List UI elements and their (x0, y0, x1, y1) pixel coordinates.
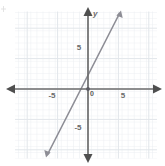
x-axis-arrow-left (6, 85, 15, 94)
x-axis-arrow-right (153, 85, 162, 94)
grid-background (15, 12, 157, 159)
y-tick-label-negative-5: -5 (74, 123, 82, 132)
origin-label: 0 (90, 90, 94, 97)
y-axis-label: y (92, 9, 98, 18)
x-tick-label-negative-5: -5 (48, 91, 56, 100)
coordinate-graph: y 0 -5 5 5 -5 (0, 0, 165, 166)
corner-artifact-mark (1, 6, 6, 12)
y-tick-label-positive-5: 5 (77, 43, 82, 52)
x-tick-label-positive-5: 5 (121, 91, 126, 100)
graph-canvas: y 0 -5 5 5 -5 (0, 0, 165, 166)
